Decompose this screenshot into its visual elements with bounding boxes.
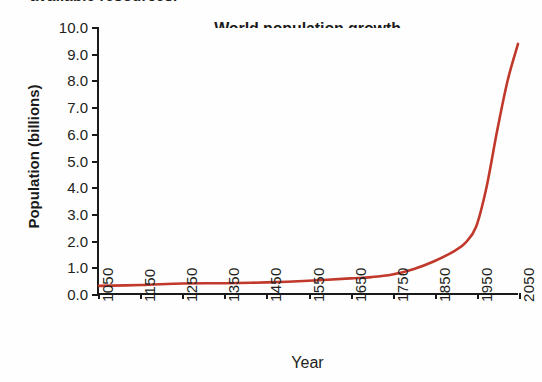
population-curve [99,44,518,286]
y-tick-mark [92,214,99,216]
x-tick-label: 1050 [99,267,116,302]
y-tick-label: 0.0 [67,286,88,303]
x-tick-label: 1850 [436,267,453,302]
y-tick-label: 1.0 [67,259,88,276]
y-tick-label: 8.0 [67,72,88,89]
x-tick-label: 1250 [183,267,200,302]
x-tick-label: 1650 [352,267,369,302]
x-tick-label: 1550 [310,267,327,302]
x-axis-title: Year [97,354,518,372]
x-tick-label: 1750 [394,267,411,302]
y-tick-label: 5.0 [67,153,88,170]
y-tick-label: 4.0 [67,179,88,196]
y-tick-mark [92,161,99,163]
y-tick-label: 6.0 [67,126,88,143]
y-tick-label: 9.0 [67,46,88,63]
x-tick-label: 2050 [520,267,537,302]
y-tick-mark [92,27,99,29]
x-tick-label: 1150 [141,269,158,302]
x-tick-label: 1450 [267,267,284,302]
chart-figure: available resources. World population gr… [0,0,542,382]
y-tick-mark [92,107,99,109]
x-tick-label: 1950 [478,267,495,302]
population-line-series [99,28,518,293]
y-tick-mark [92,267,99,269]
y-tick-mark [92,241,99,243]
y-tick-mark [92,80,99,82]
y-tick-mark [92,134,99,136]
y-tick-label: 3.0 [67,206,88,223]
plot-area: 0.01.02.03.04.05.06.07.08.09.010.0105011… [97,28,518,295]
x-tick-label: 1350 [225,267,242,302]
cutoff-heading-text: available resources. [30,0,330,5]
y-tick-mark [92,187,99,189]
y-tick-label: 10.0 [59,19,88,36]
y-tick-mark [92,54,99,56]
y-tick-label: 7.0 [67,99,88,116]
y-tick-label: 2.0 [67,233,88,250]
y-axis-title: Population (billions) [25,57,42,257]
